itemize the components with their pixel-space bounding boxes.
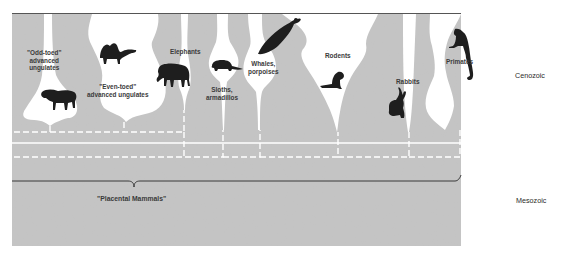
- label-rodents-line1: Rodents: [325, 52, 351, 60]
- label-rabbits-line1: Rabbits: [396, 78, 419, 86]
- label-primates: Primates: [446, 58, 473, 66]
- label-rabbits: Rabbits: [396, 78, 419, 86]
- era-label-mesozoic: Mesozoic: [516, 196, 546, 205]
- label-odd-toed-line3: ungulates: [27, 64, 61, 72]
- label-sloths-line2: armadillos: [206, 94, 238, 102]
- label-elephants: Elephants: [170, 48, 201, 56]
- label-whales-line1: Whales,: [248, 60, 279, 68]
- label-odd-toed: "Odd-toed" advanced ungulates: [27, 49, 61, 72]
- label-odd-toed-line1: "Odd-toed": [27, 49, 61, 57]
- label-whales-line2: porpoises: [248, 68, 279, 76]
- label-even-toed-line1: "Even-toed": [87, 83, 148, 91]
- label-even-toed-line2: advanced ungulates: [87, 91, 148, 99]
- phylogeny-diagram: [0, 0, 565, 259]
- label-odd-toed-line2: advanced: [27, 57, 61, 65]
- label-even-toed: "Even-toed" advanced ungulates: [87, 83, 148, 98]
- label-primates-line1: Primates: [446, 58, 473, 66]
- label-placental-mammals: "Placental Mammals": [97, 195, 166, 203]
- era-label-cenozoic: Cenozoic: [515, 71, 545, 80]
- label-elephants-line1: Elephants: [170, 48, 201, 56]
- label-sloths-line1: Sloths,: [206, 86, 238, 94]
- label-rodents: Rodents: [325, 52, 351, 60]
- label-sloths: Sloths, armadillos: [206, 86, 238, 101]
- label-whales: Whales, porpoises: [248, 60, 279, 75]
